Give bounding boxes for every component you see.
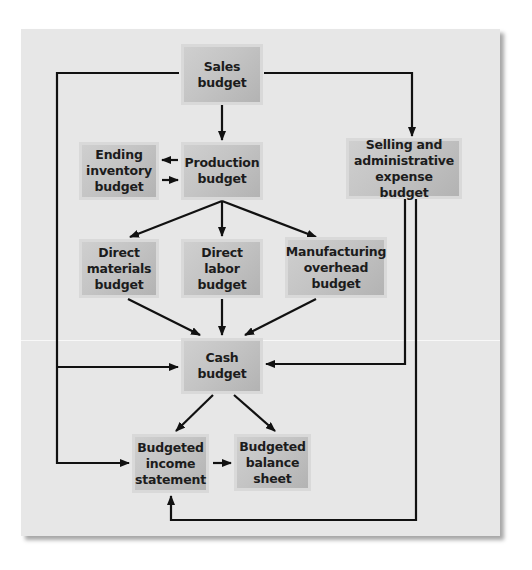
- node-direct-labor-budget: Direct labor budget: [181, 239, 263, 298]
- node-ending-inventory-budget: Ending inventory budget: [79, 142, 159, 200]
- node-cash-budget: Cash budget: [181, 338, 263, 394]
- node-budgeted-income-statement: Budgeted income statement: [132, 434, 209, 493]
- node-sales-budget: Sales budget: [181, 44, 263, 105]
- node-direct-materials-budget: Direct materials budget: [79, 239, 159, 298]
- node-production-budget: Production budget: [181, 142, 263, 200]
- node-manufacturing-overhead-budget: Manufacturing overhead budget: [285, 237, 387, 298]
- node-selling-admin-expense-budget: Selling and administrative expense budge…: [346, 138, 462, 199]
- node-budgeted-balance-sheet: Budgeted balance sheet: [234, 434, 311, 491]
